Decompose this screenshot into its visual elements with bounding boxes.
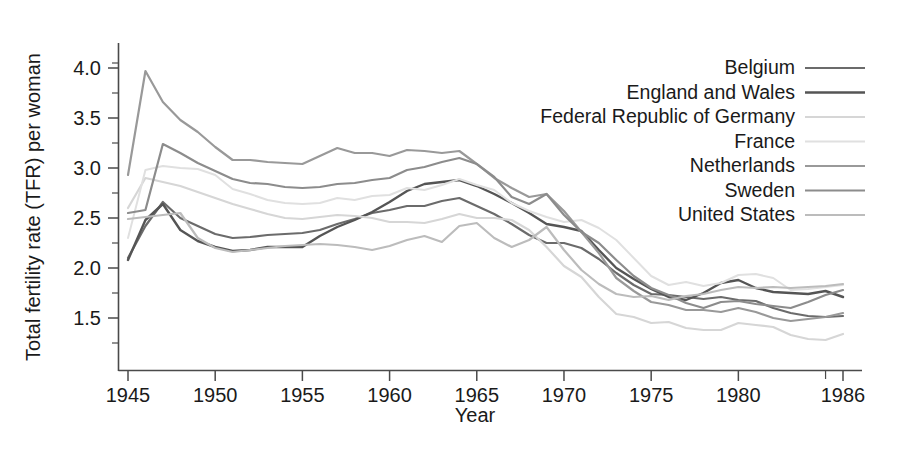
legend-label-federal-republic-of-germany: Federal Republic of Germany bbox=[540, 105, 795, 127]
x-tick-label: 1986 bbox=[821, 384, 866, 406]
chart-page: 1.52.02.53.03.54.0 194519501955196019651… bbox=[0, 0, 923, 453]
y-tick-label: 3.0 bbox=[73, 157, 101, 179]
chart-legend: BelgiumEngland and WalesFederal Republic… bbox=[540, 56, 865, 225]
x-tick-label: 1970 bbox=[542, 384, 587, 406]
x-axis-major-ticks bbox=[128, 371, 843, 382]
legend-label-sweden: Sweden bbox=[725, 179, 795, 201]
y-axis-title: Total fertility rate (TFR) per woman bbox=[22, 53, 44, 361]
x-axis-title: Year bbox=[455, 404, 496, 426]
x-tick-label: 1980 bbox=[716, 384, 761, 406]
x-tick-label: 1945 bbox=[106, 384, 151, 406]
y-tick-label: 4.0 bbox=[73, 57, 101, 79]
x-tick-label: 1975 bbox=[629, 384, 674, 406]
fertility-rate-line-chart: 1.52.02.53.03.54.0 194519501955196019651… bbox=[0, 0, 923, 453]
y-tick-label: 1.5 bbox=[73, 307, 101, 329]
x-tick-label: 1955 bbox=[280, 384, 325, 406]
y-axis-tick-labels: 1.52.02.53.03.54.0 bbox=[73, 57, 101, 329]
y-tick-label: 2.0 bbox=[73, 257, 101, 279]
x-tick-label: 1965 bbox=[455, 384, 500, 406]
legend-label-england-and-wales: England and Wales bbox=[627, 81, 796, 103]
x-axis-tick-labels: 194519501955196019651970197519801986 bbox=[106, 384, 866, 406]
y-tick-label: 2.5 bbox=[73, 207, 101, 229]
x-axis-group: 194519501955196019651970197519801986 bbox=[106, 371, 866, 407]
legend-label-belgium: Belgium bbox=[725, 56, 795, 78]
y-axis-minor-ticks bbox=[112, 63, 119, 343]
x-tick-label: 1960 bbox=[367, 384, 412, 406]
x-tick-label: 1950 bbox=[193, 384, 238, 406]
y-axis-group: 1.52.02.53.03.54.0 bbox=[73, 43, 118, 371]
y-tick-label: 3.5 bbox=[73, 107, 101, 129]
legend-label-netherlands: Netherlands bbox=[690, 154, 795, 176]
series-line-united-states bbox=[128, 213, 843, 300]
legend-label-france: France bbox=[734, 130, 795, 152]
legend-label-united-states: United States bbox=[678, 203, 795, 225]
